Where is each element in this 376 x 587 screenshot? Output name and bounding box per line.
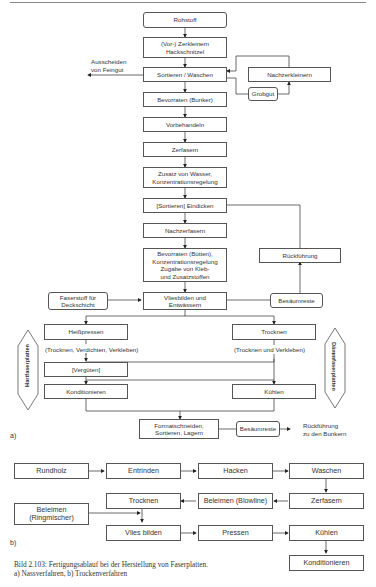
node-rohstoff: Rohstoff <box>143 12 227 28</box>
ausscheiden-feingut-label: Ausscheiden von Feingut <box>91 58 126 73</box>
node-kuehlen-a: Kühlen <box>232 384 316 399</box>
node-vorbehandeln: Vorbehandeln <box>143 117 227 132</box>
node-heisspressen: Heißpressen <box>44 324 128 340</box>
node-konditionieren-a: Konditionieren <box>44 384 128 399</box>
node-konditionieren-b: Konditionieren <box>289 555 364 571</box>
node-vlies-bilden: Vlies bilden <box>106 525 181 541</box>
node-eindicken: [Sortieren] Eindicken <box>143 198 227 213</box>
node-bevorraten-butten: Bevorraten (Bütten), Konzentrationsregel… <box>143 248 227 282</box>
trocknen-note: (Trocknen und Verkleben) <box>234 346 305 354</box>
node-trocknen-b: Trocknen <box>106 493 181 509</box>
node-trocknen-a: Trocknen <box>232 324 316 340</box>
diagram-a-label: a) <box>10 432 16 440</box>
diagram-b-label: b) <box>10 539 16 547</box>
node-grobgut: Grobgut <box>248 87 278 101</box>
node-pressen: Pressen <box>198 525 273 541</box>
node-rueckfuehrung: Rückführung <box>259 248 341 263</box>
figure-caption-line2: a) Nassverfahren, b) Trockenverfahren <box>14 569 127 578</box>
node-besaeumreste-2: Besäumreste <box>236 421 280 437</box>
node-verguten: [Vergüten] <box>44 362 128 377</box>
node-nachzerfasern: Nachzerfasern <box>143 223 227 238</box>
node-beleimen-ringmischer: Beleimen (Ringmischer) <box>14 503 89 525</box>
node-besaeumreste-1: Besäumreste <box>270 293 323 308</box>
node-formatschneiden: Formatschneiden, Sortieren, Lagern <box>139 419 219 439</box>
node-nachzerkleinern: Nachzerkleinern <box>248 67 331 82</box>
rueckfuehrung-bunkern-label: Rückführung zu den Bunkern <box>303 422 346 437</box>
node-zerfasern: Zerfasern <box>143 142 227 157</box>
node-entrinden: Entrinden <box>106 463 181 479</box>
node-hacken: Hacken <box>198 463 273 479</box>
daemmfaserplatten-label: Dämmfaserplatten <box>331 342 337 391</box>
node-zerkleinern: (Vor-) Zerkleinern Hackschnitzel <box>143 37 227 58</box>
node-faserstoff-deckschicht: Faserstoff für Deckschicht <box>48 292 108 310</box>
node-zerfasern-b: Zerfasern <box>289 493 364 509</box>
node-beleimen-blowline: Beleimen (Blowline) <box>198 493 273 509</box>
node-sortieren-waschen: Sortieren / Waschen <box>143 67 227 82</box>
node-kuehlen-b: Kühlen <box>289 525 364 541</box>
node-vliesbilden: Vliesbilden und Entwässern <box>143 292 227 310</box>
hartfaserplatten-label: Hartfaserplatten <box>24 344 30 387</box>
heisspressen-note: (Trocknen, Verdichten, Verkleben) <box>45 346 138 354</box>
figure-caption-line1: Bild 2.103: Fertigungsablauf bei der Her… <box>14 560 208 569</box>
node-zusatz-wasser: Zusatz von Wasser, Konzentrationsregelun… <box>143 167 227 188</box>
node-waschen: Waschen <box>289 463 364 479</box>
node-rundholz: Rundholz <box>14 463 89 479</box>
node-bevorraten-bunker: Bevorraten (Bunker) <box>143 92 227 107</box>
